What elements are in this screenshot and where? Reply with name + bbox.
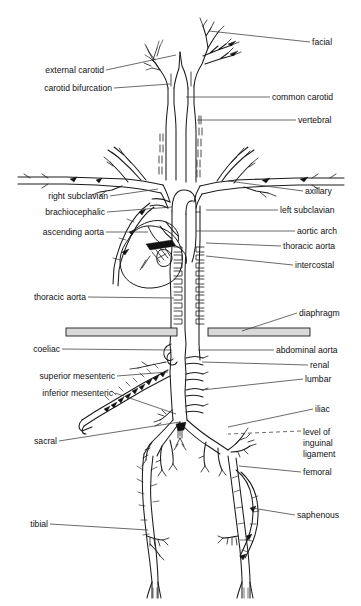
diaphragm-bar-right — [208, 328, 310, 336]
diagram-canvas: external carotid carotid bifurcation rig… — [0, 0, 361, 606]
arterial-system-figure: external carotid carotid bifurcation rig… — [0, 0, 361, 606]
label-lumbar: lumbar — [305, 374, 331, 384]
label-femoral: femoral — [303, 467, 332, 477]
label-thoracic-aorta-left: thoracic aorta — [34, 292, 86, 302]
label-inguinal-line-3: ligament — [303, 449, 336, 459]
diaphragm-bar-left — [66, 328, 177, 336]
label-iliac: iliac — [315, 404, 331, 414]
label-tibial: tibial — [30, 519, 48, 529]
label-right-subclavian: right subclavian — [48, 191, 108, 201]
label-ascending-aorta: ascending aorta — [43, 227, 104, 237]
label-renal: renal — [310, 360, 329, 370]
label-inferior-mesenteric: inferior mesenteric — [42, 388, 113, 398]
label-thoracic-aorta-right: thoracic aorta — [283, 241, 335, 251]
label-inguinal-line-1: level of — [303, 427, 331, 437]
label-axillary: axillary — [305, 186, 332, 196]
label-diaphragm: diaphragm — [299, 308, 340, 318]
label-aortic-arch: aortic arch — [297, 226, 337, 236]
label-carotid-bifurcation: carotid bifurcation — [44, 83, 112, 93]
label-saphenous: saphenous — [297, 510, 339, 520]
label-vertebral: vertebral — [298, 115, 332, 125]
label-brachiocephalic: brachiocephalic — [45, 207, 105, 217]
label-external-carotid: external carotid — [45, 65, 104, 75]
label-facial: facial — [312, 37, 332, 47]
label-superior-mesenteric: superior mesenteric — [40, 371, 116, 381]
label-sacral: sacral — [34, 436, 57, 446]
label-abdominal-aorta: abdominal aorta — [276, 345, 338, 355]
label-inguinal-line-2: inguinal — [303, 438, 333, 448]
label-intercostal: intercostal — [295, 260, 334, 270]
label-common-carotid: common carotid — [272, 92, 333, 102]
label-coeliac: coeliac — [33, 344, 60, 354]
label-left-subclavian: left subclavian — [280, 205, 335, 215]
